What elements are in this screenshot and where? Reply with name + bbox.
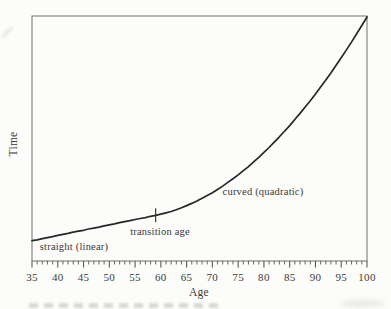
- scan-artifact: [2, 26, 13, 38]
- annotation-transition-age: transition age: [130, 225, 190, 236]
- x-tick-label-95: 95: [335, 271, 347, 283]
- x-tick-label-50: 50: [103, 271, 115, 283]
- x-tick-label-40: 40: [52, 271, 64, 283]
- x-axis-title: Age: [189, 286, 209, 298]
- time-vs-age-curve: [32, 17, 367, 241]
- x-tick-label-80: 80: [258, 271, 270, 283]
- x-tick-label-35: 35: [26, 271, 38, 283]
- plot-frame: [32, 16, 367, 261]
- x-tick-label-70: 70: [207, 271, 219, 283]
- x-tick-label-90: 90: [310, 271, 322, 283]
- x-tick-label-60: 60: [155, 271, 167, 283]
- x-tick-label-45: 45: [78, 271, 90, 283]
- scan-smudge: [340, 300, 385, 307]
- x-tick-label-100: 100: [358, 271, 375, 283]
- cropped-caption-smudge: [29, 303, 219, 308]
- x-tick-label-65: 65: [181, 271, 193, 283]
- x-tick-label-55: 55: [129, 271, 141, 283]
- x-tick-label-75: 75: [232, 271, 244, 283]
- x-tick-label-85: 85: [284, 271, 296, 283]
- annotation-straight-linear: straight (linear): [40, 240, 108, 251]
- time-vs-age-figure: 35404550556065707580859095100 Age Time s…: [0, 0, 391, 309]
- annotation-curved-quadratic: curved (quadratic): [223, 186, 304, 197]
- chart-canvas: [0, 0, 391, 309]
- y-axis-title: Time: [7, 131, 19, 156]
